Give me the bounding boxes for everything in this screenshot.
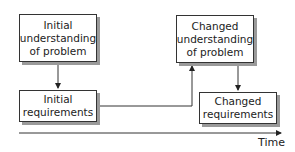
box-label-line: of problem xyxy=(20,45,96,58)
box-label-line: Initial xyxy=(20,19,96,32)
box-label-line: requirements xyxy=(23,106,93,119)
time-axis-label: Time xyxy=(258,136,285,149)
box-label-line: of problem xyxy=(177,46,253,59)
box-label-line: understanding xyxy=(177,33,253,46)
box-label-line: Changed xyxy=(203,95,273,108)
arrow-initial-requirements-to-changed-understanding xyxy=(98,66,192,106)
box-label-line: Changed xyxy=(177,20,253,33)
box-initial-understanding: Initial understanding of problem xyxy=(19,14,97,62)
box-changed-requirements: Changed requirements xyxy=(199,92,277,124)
box-label-line: requirements xyxy=(203,108,273,121)
box-label-line: Initial xyxy=(23,93,93,106)
box-label-line: understanding xyxy=(20,32,96,45)
box-changed-understanding: Changed understanding of problem xyxy=(176,15,254,63)
box-initial-requirements: Initial requirements xyxy=(19,90,97,122)
